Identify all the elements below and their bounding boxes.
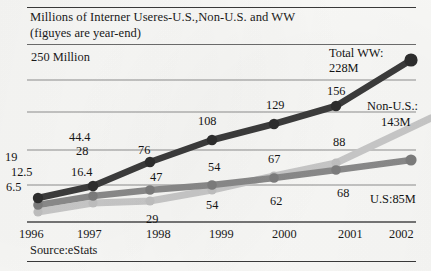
x-tick-label: 1997 bbox=[77, 227, 102, 242]
data-label: 54 bbox=[206, 198, 218, 213]
data-label: 156 bbox=[327, 84, 345, 99]
bottom-rule bbox=[27, 261, 416, 262]
data-label: 68 bbox=[337, 186, 349, 201]
data-label: 62 bbox=[270, 194, 282, 209]
x-tick-label: 1998 bbox=[146, 227, 171, 242]
data-label: 16.4 bbox=[71, 165, 93, 180]
chart-screenshot: Millions of Interner Useres-U.S.,Non-U.S… bbox=[0, 0, 431, 271]
data-label: 29 bbox=[146, 212, 158, 227]
data-label: 6.5 bbox=[6, 180, 21, 195]
x-tick-label: 2001 bbox=[338, 227, 363, 242]
callout-worldwide-name: Total WW: bbox=[329, 46, 384, 61]
data-label: 108 bbox=[198, 114, 216, 129]
x-tick-label: 1999 bbox=[209, 227, 234, 242]
callout-united-states: U.S:85M bbox=[370, 192, 416, 207]
x-tick-label: 2000 bbox=[272, 227, 297, 242]
data-label: 88 bbox=[333, 135, 345, 150]
data-label: 12.5 bbox=[11, 165, 33, 180]
callout-non-us-name: Non-U.S.: bbox=[367, 99, 418, 114]
data-label: 44.4 bbox=[69, 130, 91, 145]
data-label: 67 bbox=[268, 152, 280, 167]
data-label: 28 bbox=[76, 144, 88, 159]
source-label: Source:eStats bbox=[30, 243, 97, 258]
data-label: 129 bbox=[266, 98, 284, 113]
data-label: 54 bbox=[208, 160, 220, 175]
x-tick-label: 2002 bbox=[389, 227, 414, 242]
callout-non-us-value: 143M bbox=[381, 115, 411, 130]
data-label: 47 bbox=[150, 170, 162, 185]
callout-worldwide-value: 228M bbox=[329, 61, 359, 76]
data-label: 76 bbox=[138, 143, 150, 158]
x-tick-label: 1996 bbox=[19, 227, 44, 242]
data-label: 19 bbox=[5, 150, 17, 165]
